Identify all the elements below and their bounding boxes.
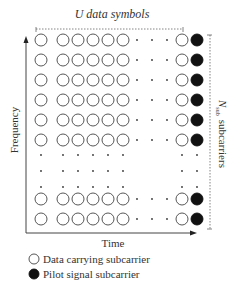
pilot-subcarrier — [191, 134, 203, 146]
data-subcarrier — [102, 114, 114, 126]
ellipsis-dot — [62, 186, 64, 188]
legend-item-data: Data carrying subcarrier — [29, 253, 150, 265]
data-subcarrier — [35, 134, 47, 146]
ellipsis-dot — [166, 59, 168, 61]
top-bracket — [36, 27, 183, 32]
data-subcarrier — [57, 193, 69, 205]
data-subcarrier — [57, 74, 69, 86]
ellipsis-dot — [181, 170, 183, 172]
ellipsis-dot — [166, 198, 168, 200]
x-axis — [26, 231, 197, 236]
subcarrier-count-label: Nsubsubcarriers — [215, 99, 229, 168]
ellipsis-dot — [166, 218, 168, 220]
data-subcarrier — [87, 213, 99, 225]
pilot-subcarrier — [191, 114, 203, 126]
data-subcarrier — [87, 114, 99, 126]
ellipsis-dot — [151, 79, 153, 81]
data-subcarrier — [176, 74, 188, 86]
data-subcarrier — [117, 54, 129, 66]
data-subcarrier — [57, 134, 69, 146]
ellipsis-dot — [136, 39, 138, 41]
data-subcarrier — [57, 213, 69, 225]
pilot-subcarrier — [191, 54, 203, 66]
data-subcarrier — [35, 54, 47, 66]
ofdm-pilot-diagram: U data symbols Nsubsubcarriers Frequency… — [0, 0, 242, 293]
ellipsis-dot — [136, 79, 138, 81]
ellipsis-dot — [107, 186, 109, 188]
data-subcarrier — [87, 134, 99, 146]
pilot-subcarrier — [191, 213, 203, 225]
filled-circle-icon — [29, 269, 39, 279]
data-subcarrier — [117, 213, 129, 225]
ellipsis-dot — [136, 119, 138, 121]
ellipsis-dot — [122, 170, 124, 172]
ellipsis-dot — [151, 59, 153, 61]
ellipsis-dot — [136, 218, 138, 220]
ellipsis-dot — [196, 170, 198, 172]
ellipsis-dot — [151, 198, 153, 200]
data-subcarrier — [102, 54, 114, 66]
data-subcarrier — [176, 54, 188, 66]
data-subcarrier — [35, 74, 47, 86]
ellipsis-dot — [166, 99, 168, 101]
ellipsis-dot — [92, 186, 94, 188]
data-subcarrier — [72, 34, 84, 46]
ellipsis-dot — [196, 154, 198, 156]
ellipsis-dot — [122, 186, 124, 188]
right-bracket — [207, 35, 212, 229]
ellipsis-dot — [166, 79, 168, 81]
data-subcarrier — [72, 74, 84, 86]
ellipsis-dot — [40, 170, 42, 172]
pilot-subcarrier — [191, 94, 203, 106]
data-subcarrier — [72, 213, 84, 225]
data-subcarrier — [176, 193, 188, 205]
y-axis-label: Frequency — [8, 106, 20, 153]
ellipsis-dot — [136, 198, 138, 200]
ellipsis-dot — [77, 170, 79, 172]
legend-label-data: Data carrying subcarrier — [43, 253, 150, 265]
pilot-subcarrier — [191, 193, 203, 205]
ellipsis-dot — [62, 170, 64, 172]
ellipsis-dot — [181, 186, 183, 188]
data-subcarrier — [35, 193, 47, 205]
data-subcarrier — [117, 134, 129, 146]
data-subcarrier — [87, 193, 99, 205]
data-subcarrier — [57, 114, 69, 126]
subcarriers-text: subcarriers — [217, 120, 229, 168]
ellipsis-dot — [40, 186, 42, 188]
data-subcarrier — [72, 134, 84, 146]
ellipsis-dot — [181, 154, 183, 156]
data-subcarrier — [117, 74, 129, 86]
pilot-subcarrier — [191, 74, 203, 86]
data-subcarrier — [102, 213, 114, 225]
ellipsis-dot — [136, 59, 138, 61]
ellipsis-dot — [166, 139, 168, 141]
data-subcarrier — [57, 34, 69, 46]
data-subcarrier — [176, 134, 188, 146]
data-subcarrier — [87, 94, 99, 106]
ellipsis-dot — [196, 186, 198, 188]
data-subcarrier — [176, 213, 188, 225]
data-subcarrier — [87, 54, 99, 66]
ellipsis-dot — [107, 170, 109, 172]
ellipsis-dot — [92, 154, 94, 156]
data-subcarrier — [87, 74, 99, 86]
data-subcarrier — [35, 114, 47, 126]
data-subcarrier — [176, 114, 188, 126]
legend: Data carrying subcarrier Pilot signal su… — [29, 253, 150, 280]
x-axis-label: Time — [102, 237, 125, 249]
open-circle-icon — [29, 254, 39, 264]
ellipsis-dot — [151, 119, 153, 121]
y-axis — [24, 36, 29, 233]
n-subscript: sub — [215, 107, 221, 115]
data-subcarrier — [102, 34, 114, 46]
ellipsis-dot — [166, 119, 168, 121]
data-subcarrier — [117, 34, 129, 46]
data-subcarrier — [176, 94, 188, 106]
diagram-title: U data symbols — [75, 7, 150, 21]
data-subcarrier — [72, 114, 84, 126]
data-subcarrier — [72, 54, 84, 66]
ellipsis-dot — [136, 99, 138, 101]
ellipsis-dot — [77, 186, 79, 188]
ellipsis-dot — [151, 218, 153, 220]
